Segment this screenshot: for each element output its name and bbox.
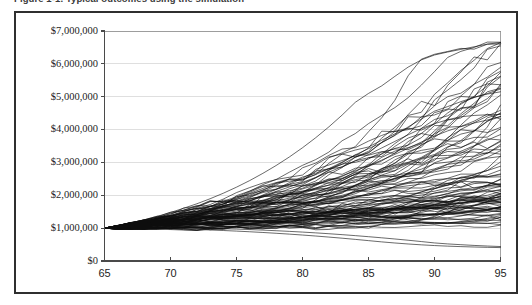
y-axis-tick-label: $6,000,000: [51, 58, 98, 69]
y-axis-tick-labels: $7,000,000$6,000,000$5,000,000$4,000,000…: [51, 25, 98, 266]
x-axis-tick-label: 90: [428, 267, 440, 279]
y-axis-tick-label: $7,000,000: [51, 25, 98, 36]
y-axis-tick-label: $2,000,000: [51, 189, 98, 200]
simulation-path: [105, 43, 501, 229]
chart-canvas: $7,000,000$6,000,000$5,000,000$4,000,000…: [0, 0, 532, 305]
simulation-paths-group: [105, 42, 501, 248]
y-axis-tick-label: $5,000,000: [51, 91, 98, 102]
y-axis-tick-label: $0: [88, 255, 99, 266]
simulation-path: [105, 228, 501, 247]
x-axis-tick-label: 95: [494, 267, 506, 279]
simulation-path: [105, 43, 501, 228]
x-axis-tick-label: 85: [362, 267, 374, 279]
y-axis-tick-label: $4,000,000: [51, 123, 98, 134]
y-axis-tick-label: $1,000,000: [51, 222, 98, 233]
x-axis-tick-label: 70: [164, 267, 176, 279]
y-axis-tick-label: $3,000,000: [51, 156, 98, 167]
monte-carlo-fan-chart: $7,000,000$6,000,000$5,000,000$4,000,000…: [0, 0, 532, 305]
x-axis-tick-labels: 65707580859095: [98, 267, 506, 279]
x-axis-tick-label: 75: [230, 267, 242, 279]
simulation-path: [105, 42, 501, 228]
x-axis-tick-label: 65: [98, 267, 110, 279]
simulation-path: [105, 228, 501, 247]
x-axis-tick-label: 80: [296, 267, 308, 279]
